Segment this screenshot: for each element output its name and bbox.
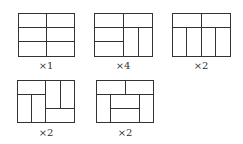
- tilings-diagram: ×1 ×4 ×2 ×2 ×2: [0, 0, 243, 144]
- tiling-figure-2: ×4: [95, 14, 153, 72]
- multiplier-label: ×2: [194, 60, 209, 71]
- tiling-figure-5: ×2: [97, 81, 154, 139]
- multiplier-label: ×4: [116, 60, 131, 71]
- tiling-figure-4: ×2: [18, 81, 75, 139]
- tiling-figure-3: ×2: [173, 14, 231, 72]
- multiplier-label: ×2: [118, 127, 133, 138]
- tiling-figure-1: ×1: [19, 14, 75, 72]
- multiplier-label: ×2: [39, 127, 54, 138]
- multiplier-label: ×1: [39, 60, 54, 71]
